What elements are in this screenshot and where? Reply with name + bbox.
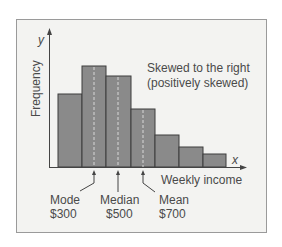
mean-arrowhead-icon [141,170,145,175]
marker-arrows [80,173,155,192]
bar-6 [179,147,203,167]
histogram-chart: y x Frequency Skewed to the right (posit… [0,0,282,247]
y-axis-symbol: y [37,33,45,47]
x-axis-arrow-icon [240,165,247,170]
marker-arrowheads [92,170,145,175]
mean-arrow [143,173,155,192]
mean-value: $700 [159,207,186,221]
x-axis-symbol: x [231,153,239,167]
y-axis-label: Frequency [29,60,43,117]
skew-annotation-line2: (positively skewed) [147,76,248,90]
x-axis-label: Weekly income [161,173,242,187]
skew-annotation-line1: Skewed to the right [147,61,250,75]
median-label: Median [100,193,139,207]
mode-arrowhead-icon [92,170,96,175]
mode-value: $300 [50,207,77,221]
mode-arrow [80,173,94,191]
mean-label: Mean [159,193,189,207]
bar-7 [203,154,226,167]
y-axis-arrow-icon [47,28,52,35]
mode-label: Mode [50,193,80,207]
bar-5 [155,135,179,167]
bar-2 [82,66,106,167]
median-arrowhead-icon [116,170,120,175]
median-value: $500 [106,207,133,221]
bar-1 [58,94,82,167]
